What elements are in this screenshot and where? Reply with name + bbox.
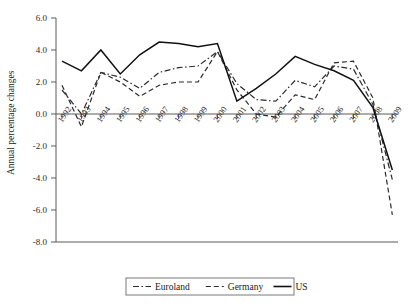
chart-legend: EurolandGermanyUS (126, 278, 308, 295)
y-tick-label: -2.0 (33, 141, 48, 151)
data-series-group (62, 42, 392, 215)
y-axis-ticks: 6.04.02.00.0-2.0-4.0-6.0-8.0 (33, 13, 56, 247)
line-chart: Annual percentage changes 6.04.02.00.0-2… (0, 0, 409, 307)
y-axis-title: Annual percentage changes (6, 70, 16, 175)
legend-label-euroland: Euroland (155, 282, 190, 292)
y-tick-label: -4.0 (33, 173, 48, 183)
y-axis-title-group: Annual percentage changes (6, 70, 16, 175)
chart-container: Annual percentage changes 6.04.02.00.0-2… (0, 0, 409, 307)
y-tick-label: -8.0 (33, 237, 48, 247)
series-line-us (62, 42, 392, 170)
y-tick-label: 6.0 (36, 13, 48, 23)
y-tick-label: 2.0 (36, 77, 48, 87)
y-tick-label: 4.0 (36, 45, 48, 55)
legend-label-germany: Germany (228, 282, 264, 292)
y-tick-label: 0.0 (36, 109, 48, 119)
y-tick-label: -6.0 (33, 205, 48, 215)
legend-label-us: US (296, 282, 308, 292)
series-line-germany (62, 52, 392, 215)
